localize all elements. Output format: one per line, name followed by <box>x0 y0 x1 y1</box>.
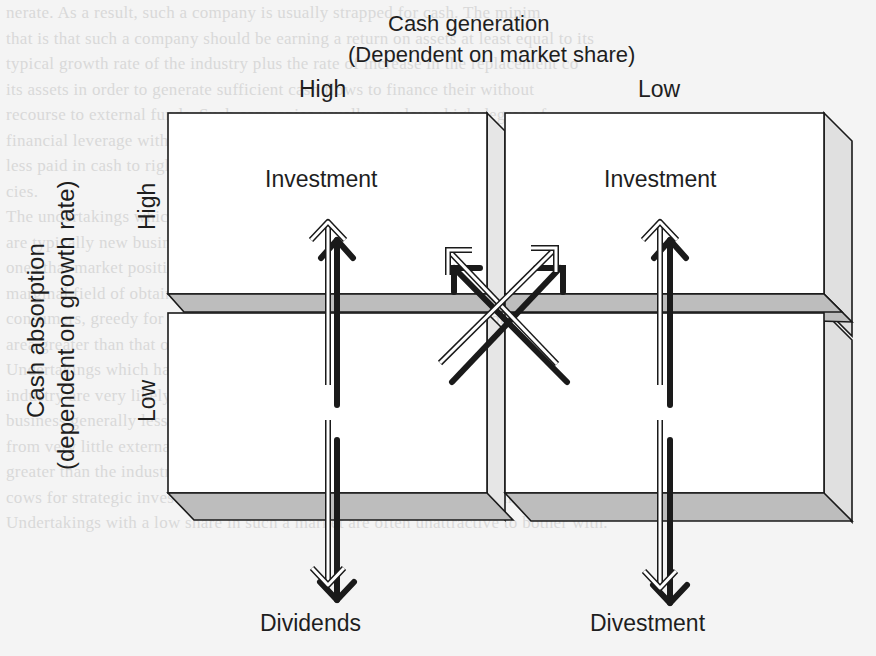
matrix-diagram <box>0 0 876 656</box>
left-axis-subtitle: (dependent on growth rate) <box>54 180 78 470</box>
box-bottom-right <box>505 313 824 493</box>
column-gap-face-top <box>487 113 505 308</box>
top-axis-low-label: Low <box>638 78 680 101</box>
right-side-face-bottom <box>824 312 852 522</box>
left-axis-title: Cash absorption <box>24 243 48 418</box>
top-axis-title: Cash generation <box>388 13 549 35</box>
cell-top-left-label: Investment <box>265 168 378 191</box>
top-axis-high-label: High <box>299 78 346 101</box>
cell-bottom-right-label: Divestment <box>590 612 705 635</box>
left-axis-high-label: High <box>136 183 159 230</box>
top-axis-subtitle: (Dependent on market share) <box>348 44 635 66</box>
cell-top-right-label: Investment <box>604 168 717 191</box>
cell-bottom-left-label: Dividends <box>260 612 361 635</box>
shelf-bottom-left <box>168 493 513 520</box>
shelf-bottom-right <box>505 493 852 521</box>
left-axis-low-label: Low <box>136 380 159 422</box>
